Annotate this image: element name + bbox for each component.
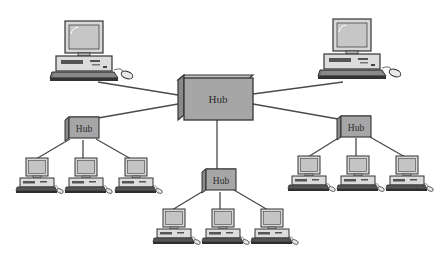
central-hub-label: Hub [209,93,228,105]
desktop-computer-icon [50,21,134,81]
computer-left-1 [16,158,64,194]
cable-hub-left [98,104,178,118]
sub-hub-left-label: Hub [76,124,93,134]
cable-hub-right [253,104,338,119]
cable-top-left-pc [98,82,178,95]
desktop-computer-icon [288,156,336,192]
desktop-computer-icon [153,209,201,245]
computer-top-right [318,19,402,79]
cable-top-right-pc [253,82,343,94]
computer-right-3 [386,156,434,192]
desktop-computer-icon [65,158,113,194]
desktop-computer-icon [337,156,385,192]
desktop-computer-icon [202,209,250,245]
computer-right-2 [337,156,385,192]
computer-left-3 [115,158,163,194]
network-diagram: Hub Hub Hub Hub [0,0,448,261]
sub-hub-left: Hub [65,117,99,141]
sub-hub-bottom: Hub [202,169,236,193]
sub-hub-bottom-label: Hub [213,176,230,186]
computer-left-2 [65,158,113,194]
desktop-computer-icon [318,19,402,79]
computer-bottom-1 [153,209,201,245]
desktop-computer-icon [386,156,434,192]
desktop-computer-icon [251,209,299,245]
sub-hub-right: Hub [337,116,371,140]
desktop-computer-icon [115,158,163,194]
computer-bottom-2 [202,209,250,245]
sub-hub-right-label: Hub [348,123,365,133]
computer-bottom-3 [251,209,299,245]
desktop-computer-icon [16,158,64,194]
central-hub: Hub [178,75,253,120]
computer-right-1 [288,156,336,192]
computer-top-left [50,21,134,81]
